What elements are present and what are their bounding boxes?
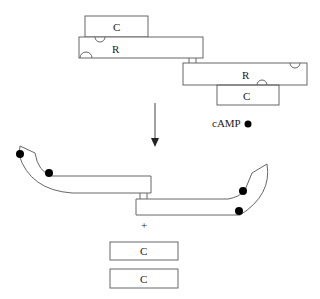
label-c-right: C xyxy=(243,90,250,102)
label-c-top: C xyxy=(113,21,120,33)
camp-bound-dot xyxy=(235,207,243,215)
pka-activation-diagram: C R R C cAMP + C C xyxy=(0,0,320,299)
arrow-down-icon xyxy=(151,103,159,147)
plus-sign: + xyxy=(141,219,147,231)
camp-bound-dot xyxy=(239,187,247,195)
dimer-linker-top xyxy=(189,58,196,63)
binding-site-right-1 xyxy=(290,63,300,68)
label-r-top: R xyxy=(112,43,120,55)
regulatory-subunit-right-active xyxy=(136,164,268,215)
camp-dot-icon xyxy=(245,121,252,128)
regulatory-subunit-left-active xyxy=(19,146,151,193)
dimer-linker-bottom xyxy=(140,193,147,199)
top-complex xyxy=(79,16,203,58)
regulatory-subunit-top xyxy=(79,37,203,58)
label-c-free-2: C xyxy=(140,273,147,285)
label-r-right: R xyxy=(242,69,250,81)
camp-bound-dot xyxy=(45,169,53,177)
binding-site-right-2 xyxy=(257,80,267,85)
camp-label: cAMP xyxy=(212,117,241,129)
label-c-free-1: C xyxy=(140,245,147,257)
camp-bound-dot xyxy=(16,150,24,158)
